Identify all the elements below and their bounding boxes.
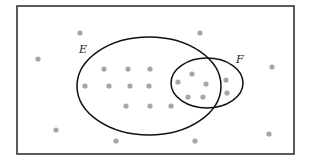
sample-point [223,77,228,82]
sample-point [125,66,130,71]
venn-diagram: EF [0,0,311,162]
sample-point [185,94,190,99]
sample-point [203,81,208,86]
sample-point [113,138,118,143]
sample-point [168,103,173,108]
sample-point [123,103,128,108]
sample-point [189,71,194,76]
set-e-label: E [78,43,87,56]
set-f-label: F [235,53,244,66]
sample-point [147,66,152,71]
sample-point [127,83,132,88]
sample-point [192,138,197,143]
sample-point [146,83,151,88]
sample-point [200,94,205,99]
sample-points [35,30,274,143]
sample-point [224,90,229,95]
sample-point [269,64,274,69]
sample-point [147,103,152,108]
sample-point [53,127,58,132]
sample-point [197,30,202,35]
event-sets: EF [77,37,244,135]
sample-point [101,66,106,71]
sample-point [266,131,271,136]
sample-point [77,30,82,35]
sample-point [175,79,180,84]
sample-space-border [17,6,294,154]
sample-point [35,56,40,61]
sample-point [82,83,87,88]
sample-point [106,83,111,88]
